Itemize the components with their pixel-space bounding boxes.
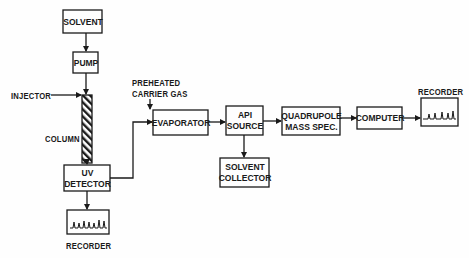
column-shape [82, 95, 92, 163]
solvent-collector-label: SOLVENT COLLECTOR [220, 158, 270, 188]
carrier-gas-label: PREHEATED CARRIER GAS [132, 78, 188, 100]
evaporator-label: EVAPORATOR [153, 110, 209, 136]
lc-ms-block-diagram: SOLVENT PUMP COLUMN UV DETECTOR RECORDER… [0, 0, 469, 258]
recorder-uv-label: RECORDER [66, 241, 111, 251]
recorder-ms-label: RECORDER [418, 87, 463, 97]
computer-label: COMPUTER [357, 107, 403, 130]
solvent-label: SOLVENT [63, 10, 103, 34]
uv-detector-label: UV DETECTOR [64, 165, 111, 192]
pump-label: PUMP [73, 52, 99, 74]
recorder-uv-box [67, 210, 109, 234]
api-source-label: API SOURCE [226, 106, 264, 136]
recorder-ms-trace [423, 111, 456, 119]
quadrupole-label: QUADRUPOLE MASS SPEC. [282, 107, 341, 136]
injector-label: INJECTOR [11, 91, 51, 101]
column-label: COLUMN [45, 134, 80, 144]
recorder-uv-trace [70, 220, 107, 228]
